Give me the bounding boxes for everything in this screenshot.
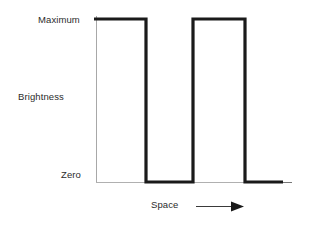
- y-axis-tick-label-zero: Zero: [61, 170, 81, 180]
- square-wave-diagram: Maximum Zero Brightness Space: [0, 0, 311, 225]
- plot-area-svg: [0, 0, 311, 225]
- x-axis-title: Space: [151, 200, 178, 210]
- y-axis-title: Brightness: [18, 92, 64, 102]
- arrow-right-icon: [196, 202, 244, 212]
- y-axis-tick-label-maximum: Maximum: [38, 15, 80, 25]
- brightness-waveform-trace: [94, 19, 283, 182]
